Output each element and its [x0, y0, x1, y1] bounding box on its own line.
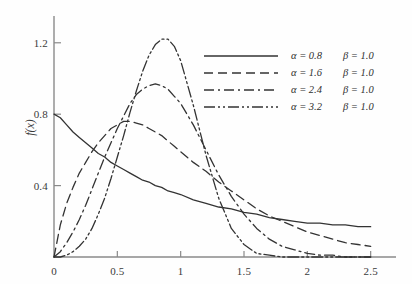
weibull-pdf-figure: f(x) 00.511.522.5 0.40.81.2 α = 0.8β = 1…	[0, 0, 412, 284]
legend-row: α = 2.4β = 1.0	[203, 81, 388, 98]
x-axis-ticks	[117, 251, 370, 257]
y-tick-label: 0.8	[20, 108, 48, 120]
y-tick-label: 1.2	[20, 37, 48, 49]
legend-line-swatch	[203, 50, 279, 62]
legend-alpha-label: α = 0.8	[279, 50, 343, 61]
chart-legend: α = 0.8β = 1.0α = 1.6β = 1.0α = 2.4β = 1…	[203, 47, 388, 115]
legend-alpha-label: α = 2.4	[279, 84, 343, 95]
x-tick-label: 2.5	[363, 265, 377, 277]
x-tick-label: 0	[51, 265, 57, 277]
curve-alpha-1-6	[54, 121, 371, 257]
plot-area	[0, 0, 412, 284]
legend-beta-label: β = 1.0	[343, 101, 391, 112]
legend-row: α = 1.6β = 1.0	[203, 64, 388, 81]
legend-beta-label: β = 1.0	[343, 50, 391, 61]
legend-line-swatch	[203, 84, 279, 96]
legend-alpha-label: α = 1.6	[279, 67, 343, 78]
legend-row: α = 0.8β = 1.0	[203, 47, 388, 64]
legend-row: α = 3.2β = 1.0	[203, 98, 388, 115]
x-tick-label: 0.5	[110, 265, 124, 277]
legend-line-swatch	[203, 67, 279, 79]
legend-line-swatch	[203, 101, 279, 113]
y-tick-label: 0.4	[20, 180, 48, 192]
x-tick-label: 1.5	[237, 265, 251, 277]
legend-alpha-label: α = 3.2	[279, 101, 343, 112]
x-tick-label: 1	[178, 265, 184, 277]
curve-alpha-0-8	[54, 114, 371, 226]
legend-beta-label: β = 1.0	[343, 84, 391, 95]
x-tick-label: 2	[304, 265, 310, 277]
legend-beta-label: β = 1.0	[343, 67, 391, 78]
